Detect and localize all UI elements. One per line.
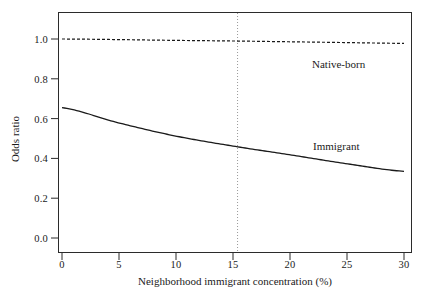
immigrant-label: Immigrant — [313, 140, 359, 152]
x-axis-ticks — [62, 253, 404, 260]
series-line-native-born — [62, 39, 404, 43]
y-axis-ticks — [51, 39, 58, 238]
plot-graphics — [0, 0, 425, 298]
odds-ratio-chart: Odds ratio 1.0 0.8 0.6 0.4 0.2 0.0 0 5 1… — [0, 0, 425, 298]
native-born-label: Native-born — [312, 58, 365, 70]
